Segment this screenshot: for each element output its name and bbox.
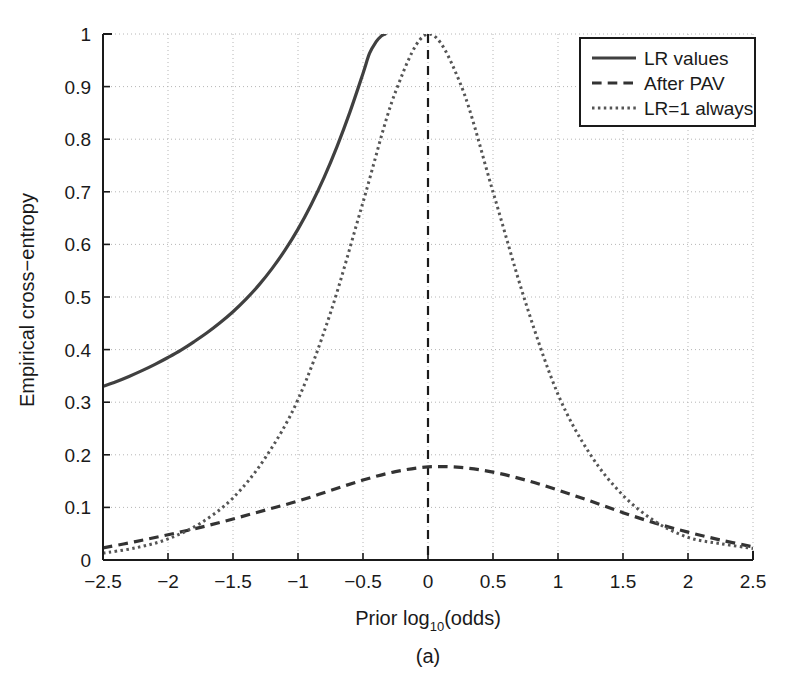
x-tick-label: −2 xyxy=(157,571,179,592)
legend-label-2: LR=1 always xyxy=(644,98,753,119)
x-axis-title-suffix: (odds) xyxy=(444,607,501,629)
x-tick-label: −1.5 xyxy=(214,571,252,592)
x-tick-label: −2.5 xyxy=(84,571,122,592)
x-tick-label: −1 xyxy=(287,571,309,592)
y-axis-title: Empirical cross−entropy xyxy=(16,193,38,407)
legend-label-0: LR values xyxy=(644,48,729,69)
y-tick-label: 0.1 xyxy=(65,497,91,518)
y-tick-label: 0.4 xyxy=(65,340,92,361)
x-tick-label: 1 xyxy=(553,571,564,592)
legend-label-1: After PAV xyxy=(644,73,725,94)
y-tick-label: 0.8 xyxy=(65,129,91,150)
y-tick-label: 0.2 xyxy=(65,445,91,466)
y-tick-label: 0.5 xyxy=(65,287,91,308)
y-tick-label: 0.6 xyxy=(65,234,91,255)
x-tick-label: 1.5 xyxy=(610,571,636,592)
y-tick-label: 0.7 xyxy=(65,182,91,203)
chart-legend[interactable]: LR valuesAfter PAVLR=1 always xyxy=(580,38,755,126)
x-axis-title-subscript: 10 xyxy=(430,619,444,634)
x-tick-label: 2.5 xyxy=(740,571,766,592)
y-tick-label: 1 xyxy=(80,24,91,45)
y-tick-label: 0.9 xyxy=(65,77,91,98)
x-tick-label: 0 xyxy=(423,571,434,592)
y-tick-label: 0 xyxy=(80,550,91,571)
x-axis-title-prefix: Prior log xyxy=(355,607,429,629)
x-tick-label: 0.5 xyxy=(480,571,506,592)
figure-container: −2.5−2−1.5−1−0.500.511.522.5 00.10.20.30… xyxy=(0,0,794,690)
x-tick-label: −0.5 xyxy=(344,571,382,592)
y-tick-label: 0.3 xyxy=(65,392,91,413)
figure-caption: (a) xyxy=(416,645,440,667)
chart-canvas: −2.5−2−1.5−1−0.500.511.522.5 00.10.20.30… xyxy=(0,0,794,690)
x-tick-label: 2 xyxy=(683,571,694,592)
